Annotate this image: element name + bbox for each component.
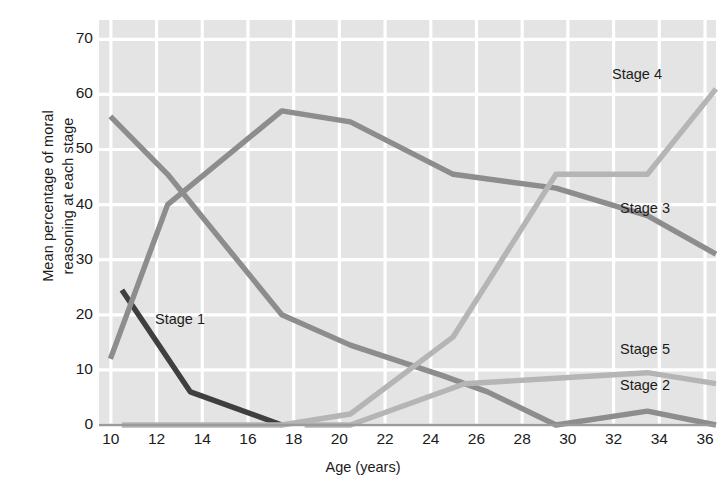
x-tick-label-16: 16: [228, 430, 268, 448]
x-tick-label-12: 12: [137, 430, 177, 448]
x-tick-label-24: 24: [411, 430, 451, 448]
x-tick-label-18: 18: [274, 430, 314, 448]
series-label-stage-2: Stage 2: [620, 377, 670, 393]
y-tick-label-10: 10: [53, 360, 93, 378]
y-tick-label-40: 40: [53, 195, 93, 213]
x-tick-label-32: 32: [594, 430, 634, 448]
x-tick-label-22: 22: [365, 430, 405, 448]
series-label-stage-3: Stage 3: [620, 200, 670, 216]
x-tick-label-20: 20: [319, 430, 359, 448]
x-tick-label-28: 28: [502, 430, 542, 448]
x-tick-label-14: 14: [182, 430, 222, 448]
x-tick-label-36: 36: [685, 430, 725, 448]
y-tick-label-20: 20: [53, 305, 93, 323]
x-tick-label-34: 34: [639, 430, 679, 448]
y-tick-label-50: 50: [53, 139, 93, 157]
x-tick-label-26: 26: [456, 430, 496, 448]
moral-reasoning-line-chart: Mean percentage of moral reasoning at ea…: [0, 0, 726, 500]
y-tick-label-0: 0: [53, 415, 93, 433]
x-tick-label-10: 10: [91, 430, 131, 448]
y-tick-label-60: 60: [53, 84, 93, 102]
series-label-stage-5: Stage 5: [620, 341, 670, 357]
series-label-stage-1: Stage 1: [155, 311, 205, 327]
x-axis-title: Age (years): [0, 459, 726, 475]
series-label-stage-4: Stage 4: [612, 66, 662, 82]
y-tick-label-30: 30: [53, 250, 93, 268]
y-tick-label-70: 70: [53, 29, 93, 47]
x-tick-label-30: 30: [548, 430, 588, 448]
